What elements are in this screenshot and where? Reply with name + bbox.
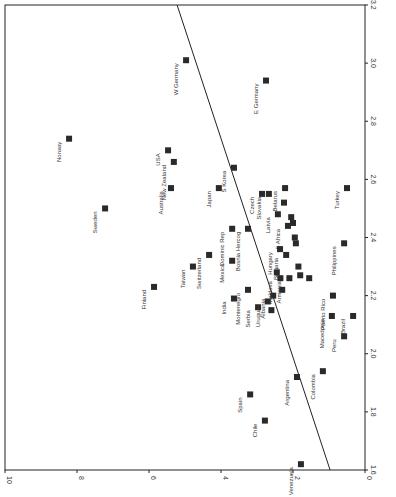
- point-label: Philippines: [331, 246, 337, 275]
- data-point: [295, 264, 301, 270]
- data-point: [247, 391, 253, 397]
- point-label: Latvia: [265, 217, 271, 234]
- regression-line: [177, 5, 330, 470]
- y-tick-label: 3.0: [370, 58, 377, 68]
- point-label: Moldova: [267, 281, 273, 304]
- data-points: W GermanyE GermanyNorwayUSANew ZealandAu…: [56, 57, 356, 495]
- y-axis-ticks: 1.61.82.02.22.42.62.83.03.2: [365, 0, 377, 475]
- x-tick-label: 8: [78, 476, 85, 480]
- point-label: Switzerland: [196, 258, 202, 289]
- data-point: [262, 418, 268, 424]
- x-tick-label: 10: [6, 476, 13, 484]
- y-tick-label: 1.6: [370, 465, 377, 475]
- y-tick-label: 2.2: [370, 291, 377, 301]
- point-label: Hungary: [267, 252, 273, 275]
- data-point: [266, 191, 272, 197]
- data-point: [168, 185, 174, 191]
- data-point: [290, 220, 296, 226]
- x-axis-ticks: 1086420: [5, 470, 373, 484]
- data-point: [206, 252, 212, 258]
- x-tick-label: 2: [294, 476, 301, 480]
- data-point: [102, 205, 108, 211]
- data-point: [183, 57, 189, 63]
- point-label: E Germany: [253, 84, 259, 114]
- x-tick-label: 0: [366, 476, 373, 480]
- point-label: Macedonia: [319, 318, 325, 348]
- point-label: Dominic Rep: [219, 231, 225, 266]
- data-point: [282, 185, 288, 191]
- data-point: [229, 226, 235, 232]
- point-label: Belarus: [272, 191, 278, 211]
- data-point: [306, 275, 312, 281]
- data-point: [66, 136, 72, 142]
- point-label: S Korea: [221, 170, 227, 192]
- y-tick-label: 1.8: [370, 407, 377, 417]
- data-point: [245, 287, 251, 293]
- x-tick-label: 6: [150, 476, 157, 480]
- y-tick-label: 2.6: [370, 174, 377, 184]
- data-point: [281, 200, 287, 206]
- point-label: USA: [155, 153, 161, 165]
- data-point: [329, 313, 335, 319]
- data-point: [298, 461, 304, 467]
- point-label: Brazil: [340, 319, 346, 334]
- data-point: [229, 258, 235, 264]
- point-label: Mexico: [219, 263, 225, 283]
- point-label: Venezuela: [288, 467, 294, 496]
- data-point: [245, 226, 251, 232]
- data-point: [275, 211, 281, 217]
- point-label: Sweden: [92, 211, 98, 233]
- point-label: Czech: [249, 197, 255, 214]
- data-point: [277, 275, 283, 281]
- data-point: [344, 185, 350, 191]
- point-label: Chile: [252, 423, 258, 437]
- point-label: Peru: [331, 339, 337, 352]
- y-tick-label: 2.0: [370, 349, 377, 359]
- point-label: Australia: [158, 190, 164, 214]
- data-point: [259, 191, 265, 197]
- point-label: India: [221, 301, 227, 315]
- data-point: [165, 147, 171, 153]
- y-tick-label: 2.4: [370, 233, 377, 243]
- data-point: [190, 264, 196, 270]
- data-point: [341, 333, 347, 339]
- point-label: Finland: [141, 290, 147, 310]
- point-label: Albania: [260, 298, 266, 319]
- point-label: Montenegro: [235, 292, 241, 325]
- data-point: [151, 284, 157, 290]
- point-label: Spain: [237, 397, 243, 412]
- data-point: [320, 368, 326, 374]
- data-point: [279, 287, 285, 293]
- point-label: Taiwan: [180, 270, 186, 289]
- data-point: [283, 252, 289, 258]
- data-point: [171, 159, 177, 165]
- point-label: Serbia: [245, 310, 251, 328]
- data-point: [286, 275, 292, 281]
- y-tick-label: 3.2: [370, 0, 377, 10]
- point-label: Colombia: [310, 374, 316, 400]
- y-tick-label: 2.8: [370, 116, 377, 126]
- data-point: [292, 235, 298, 241]
- data-point: [274, 269, 280, 275]
- data-point: [293, 240, 299, 246]
- point-label: Norway: [56, 142, 62, 162]
- data-point: [277, 246, 283, 252]
- data-point: [297, 272, 303, 278]
- data-point: [341, 240, 347, 246]
- data-point: [288, 214, 294, 220]
- point-label: Argentina: [284, 379, 290, 405]
- data-point: [268, 307, 274, 313]
- scatter-chart: 1086420 1.61.82.02.22.42.62.83.03.2 W Ge…: [0, 0, 396, 497]
- x-tick-label: 4: [222, 476, 229, 480]
- point-label: Japan: [206, 191, 212, 207]
- data-point: [216, 185, 222, 191]
- point-label: Turkey: [334, 191, 340, 209]
- point-label: Bosnia Hercog: [235, 232, 241, 271]
- point-label: Slovakia: [256, 196, 262, 219]
- data-point: [350, 313, 356, 319]
- data-point: [263, 78, 269, 84]
- point-label: W Germany: [173, 63, 179, 95]
- data-point: [294, 374, 300, 380]
- data-point: [231, 165, 237, 171]
- data-point: [330, 293, 336, 299]
